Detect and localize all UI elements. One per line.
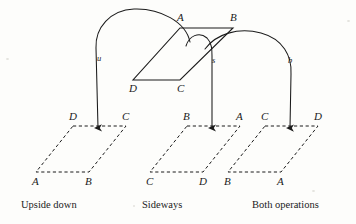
result1-vertex-label-A: A — [32, 176, 39, 187]
arrow-s-label: s — [212, 56, 215, 65]
scan-speck — [312, 190, 315, 192]
scan-speck — [6, 58, 9, 60]
result3-vertex-label-B: B — [224, 176, 231, 187]
result-sideways-path — [150, 126, 240, 172]
result1-vertex-label-D: D — [69, 111, 77, 122]
result3-vertex-label-D: D — [314, 111, 322, 122]
arrow-b-path — [205, 31, 291, 128]
transformation-figure: A B C D u s b D C B A Upside down B A D … — [0, 0, 356, 224]
result2-vertex-label-B: B — [183, 111, 190, 122]
scan-speck — [133, 205, 135, 207]
result1-caption: Upside down — [21, 200, 77, 211]
original-parallelogram-outline — [133, 28, 233, 80]
result1-vertex-label-C: C — [122, 111, 129, 122]
arrow-b-label: b — [288, 56, 292, 65]
result-both-operations-path — [228, 126, 318, 172]
scan-speck — [347, 20, 350, 22]
figure-canvas — [0, 0, 356, 224]
result2-caption: Sideways — [142, 200, 182, 211]
source-vertex-label-D: D — [129, 83, 137, 94]
arrow-u-label: u — [97, 54, 101, 63]
result2-vertex-label-A: A — [236, 111, 243, 122]
result3-vertex-label-A: A — [277, 176, 284, 187]
result2-vertex-label-C: C — [146, 176, 153, 187]
source-vertex-label-A: A — [177, 12, 184, 23]
result2-vertex-label-D: D — [199, 176, 207, 187]
source-vertex-label-B: B — [230, 12, 237, 23]
original-parallelogram-path — [133, 28, 233, 80]
source-vertex-label-C: C — [177, 83, 184, 94]
result3-vertex-label-C: C — [261, 111, 268, 122]
result-upside-down-path — [36, 126, 126, 172]
result3-caption: Both operations — [252, 200, 319, 211]
result1-vertex-label-B: B — [85, 176, 92, 187]
